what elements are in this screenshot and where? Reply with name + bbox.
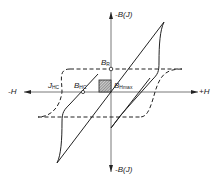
br-point [109, 67, 113, 71]
arrow-down-icon [109, 165, 113, 172]
x-axis-right-label: +H [199, 88, 209, 96]
y-axis-top-label: -B(J) [115, 11, 132, 19]
arrow-right-icon [191, 90, 198, 94]
bhmax-square [99, 80, 111, 92]
arrow-up-icon [109, 12, 113, 19]
br-label: BR [101, 59, 110, 67]
y-axis-bottom-label: -B(J) [115, 166, 132, 174]
bhmax-label: BHmax [114, 82, 132, 90]
bhc-point [81, 90, 84, 93]
jhc-label: JHC [48, 82, 59, 90]
arrow-left-icon [24, 90, 31, 94]
bhc-label: BHC [74, 82, 87, 90]
diagram-graphics [0, 0, 217, 182]
bh-loop-solid [57, 22, 164, 163]
x-axis-left-label: -H [8, 88, 16, 96]
hysteresis-diagram: -B(J) -B(J) -H +H BR BHmax JHC BHC [0, 0, 217, 182]
